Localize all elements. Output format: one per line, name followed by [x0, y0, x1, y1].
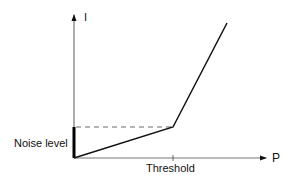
y-axis-label: I: [84, 12, 87, 23]
noise-level-label: Noise level: [14, 138, 68, 149]
response-curve: [74, 23, 227, 158]
x-axis-label: P: [272, 152, 280, 164]
threshold-label: Threshold: [146, 163, 195, 174]
diagram-canvas: [0, 0, 288, 183]
